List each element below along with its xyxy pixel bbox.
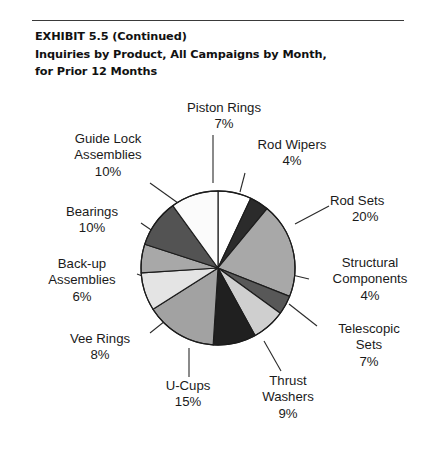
pie-label-rod-wipers-name: Rod Wipers: [236, 137, 348, 153]
pie-label-vee-rings-percent: 8%: [48, 347, 152, 363]
exhibit-header: EXHIBIT 5.5 (Continued) Inquiries by Pro…: [35, 28, 415, 81]
pie-label-backup-assemblies-percent: 6%: [24, 289, 140, 305]
pie-slices: [141, 191, 295, 345]
pie-label-telescopic-sets-name-line-1: Telescopic: [313, 321, 425, 337]
pie-label-u-cups-name: U-Cups: [142, 378, 234, 394]
pie-label-guide-lock-assemblies-percent: 10%: [50, 164, 166, 180]
pie-chart-figure: Piston Rings 7% Rod Wipers 4% Rod Sets 2…: [0, 88, 433, 463]
pie-label-backup-assemblies-name-line-1: Back-up: [24, 256, 140, 272]
leader-line-guide-lock: [150, 183, 178, 203]
pie-label-vee-rings: Vee Rings 8%: [48, 331, 152, 364]
exhibit-number-line: EXHIBIT 5.5 (Continued): [35, 28, 415, 46]
pie-label-bearings: Bearings 10%: [40, 204, 144, 237]
header-divider-rule: [32, 20, 404, 21]
pie-label-guide-lock-assemblies: Guide Lock Assemblies 10%: [50, 131, 166, 180]
pie-label-piston-rings: Piston Rings 7%: [160, 100, 288, 133]
exhibit-title-line-2: for Prior 12 Months: [35, 63, 415, 81]
pie-label-u-cups: U-Cups 15%: [142, 378, 234, 411]
pie-label-guide-lock-assemblies-name-line-1: Guide Lock: [50, 131, 166, 147]
pie-label-guide-lock-assemblies-name-line-2: Assemblies: [50, 147, 166, 163]
pie-label-thrust-washers: Thrust Washers 9%: [239, 373, 337, 422]
leader-line-thrust: [264, 341, 281, 371]
pie-label-bearings-name: Bearings: [40, 204, 144, 220]
pie-label-structural-components-percent: 4%: [311, 288, 429, 304]
pie-label-thrust-washers-name-line-2: Washers: [239, 389, 337, 405]
pie-label-u-cups-percent: 15%: [142, 394, 234, 410]
leader-line-rod-sets: [295, 206, 329, 224]
pie-label-thrust-washers-name-line-1: Thrust: [239, 373, 337, 389]
pie-label-telescopic-sets-percent: 7%: [313, 354, 425, 370]
pie-label-bearings-percent: 10%: [40, 220, 144, 236]
pie-label-backup-assemblies: Back-up Assemblies 6%: [24, 256, 140, 305]
pie-label-thrust-washers-percent: 9%: [239, 406, 337, 422]
pie-label-structural-components-name-line-1: Structural: [311, 255, 429, 271]
exhibit-title-line-1: Inquiries by Product, All Campaigns by M…: [35, 46, 415, 64]
pie-label-telescopic-sets: Telescopic Sets 7%: [313, 321, 425, 370]
pie-label-telescopic-sets-name-line-2: Sets: [313, 337, 425, 353]
pie-label-structural-components: Structural Components 4%: [311, 255, 429, 304]
pie-label-piston-rings-name: Piston Rings: [160, 100, 288, 116]
pie-label-rod-sets: Rod Sets 20%: [330, 193, 426, 226]
pie-label-rod-sets-percent: 20%: [330, 209, 426, 225]
pie-label-rod-wipers-percent: 4%: [236, 153, 348, 169]
leader-line-rod-wipers: [240, 173, 245, 192]
pie-label-rod-wipers: Rod Wipers 4%: [236, 137, 348, 170]
pie-label-structural-components-name-line-2: Components: [311, 271, 429, 287]
pie-label-piston-rings-percent: 7%: [160, 116, 288, 132]
pie-label-backup-assemblies-name-line-2: Assemblies: [24, 272, 140, 288]
pie-label-vee-rings-name: Vee Rings: [48, 331, 152, 347]
pie-label-rod-sets-name: Rod Sets: [330, 193, 426, 209]
